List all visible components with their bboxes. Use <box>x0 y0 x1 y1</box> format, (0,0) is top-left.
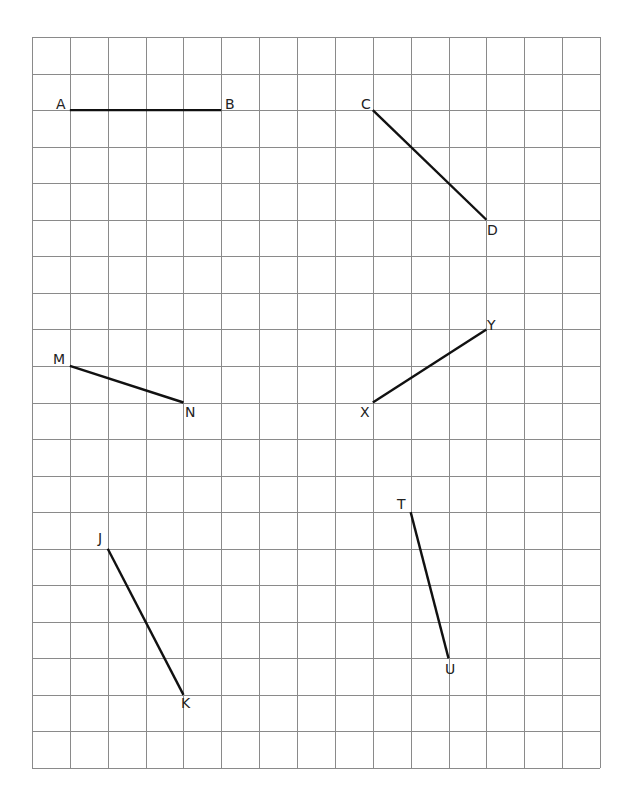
segment-xy <box>373 329 487 402</box>
segment-mn <box>70 366 184 403</box>
label-point-x: X <box>360 405 370 419</box>
label-point-j: J <box>98 531 102 545</box>
label-point-k: K <box>181 696 190 710</box>
label-point-y: Y <box>487 318 496 332</box>
label-point-u: U <box>445 662 455 676</box>
label-point-a: A <box>56 97 66 111</box>
label-point-m: M <box>53 352 65 366</box>
line-segments <box>70 110 487 695</box>
label-point-t: T <box>397 497 406 511</box>
grid-diagram <box>0 0 627 810</box>
segment-cd <box>373 110 487 220</box>
grid <box>32 37 601 769</box>
label-point-d: D <box>487 223 498 237</box>
label-point-b: B <box>225 97 235 111</box>
label-point-c: C <box>361 97 371 111</box>
label-point-n: N <box>185 405 195 419</box>
segment-jk <box>108 549 184 695</box>
